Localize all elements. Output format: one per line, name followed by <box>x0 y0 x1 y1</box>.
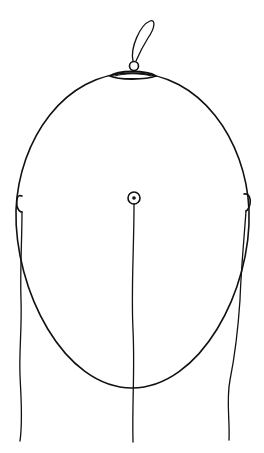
ground-electrode-ring <box>130 62 139 71</box>
center-lead-wire <box>132 204 134 442</box>
right-lead-wire <box>228 211 246 440</box>
left-lead-wire <box>20 212 22 441</box>
center-electrode-dot <box>132 196 136 200</box>
diagram-svg <box>0 0 264 453</box>
left-ear-electrode <box>17 196 22 212</box>
head-outline <box>16 73 249 388</box>
ground-electrode-loop <box>132 21 153 61</box>
head-electrode-diagram <box>0 0 264 453</box>
